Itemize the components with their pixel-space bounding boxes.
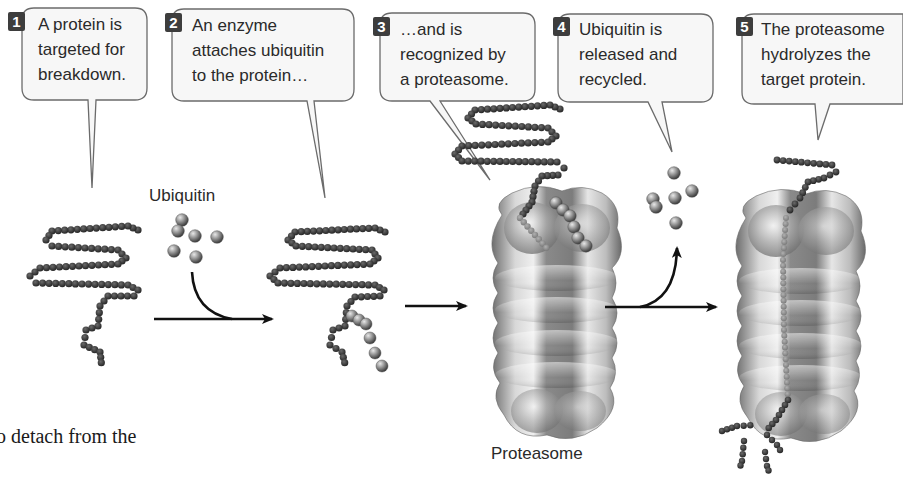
ubiquitin-chain-bead — [369, 347, 381, 359]
ubiquitin-pathway-diagram: 1 A protein is targeted for breakdown. 2… — [0, 0, 903, 479]
ubiquitin-chain-bead — [564, 210, 576, 222]
step-text-line: An enzyme — [192, 16, 277, 35]
released-ubiquitin — [650, 201, 663, 214]
reaction-arrow-3 — [605, 248, 716, 307]
step-number: 2 — [169, 14, 177, 31]
step-number: 3 — [377, 18, 385, 35]
step-number: 5 — [740, 18, 748, 35]
ubiquitin-chain-bead — [568, 221, 580, 233]
step-1-callout: 1 A protein is targeted for breakdown. — [8, 8, 147, 188]
step-text-line: attaches ubiquitin — [192, 41, 324, 60]
step-text-line: breakdown. — [38, 65, 126, 84]
proteasome-3 — [492, 186, 622, 438]
peptide-fragment — [762, 449, 772, 474]
released-ubiquitin — [669, 192, 682, 205]
step-text-line: to the protein… — [192, 66, 308, 85]
step-text-line: recycled. — [579, 70, 647, 89]
released-ubiquitin — [668, 167, 681, 180]
peptide-fragment — [737, 438, 747, 469]
released-ubiquitin — [686, 185, 699, 198]
step-number: 4 — [557, 18, 566, 35]
released-ubiquitin — [670, 217, 683, 230]
step-text-line: targeted for — [38, 40, 125, 59]
step-2-callout: 2 An enzyme attaches ubiquitin to the pr… — [165, 9, 354, 198]
ubiquitin-molecule — [172, 225, 185, 238]
step-number: 1 — [12, 13, 20, 30]
step-text-line: recognized by — [400, 45, 506, 64]
peptide-fragment — [719, 422, 754, 434]
step-4-callout: 4 Ubiquitin is released and recycled. — [553, 14, 713, 152]
reaction-arrow-1 — [154, 272, 272, 319]
protein-chains — [26, 101, 839, 473]
ubiquitin-molecule — [211, 231, 224, 244]
ubiquitin-label: Ubiquitin — [149, 186, 215, 205]
target-protein-1 — [26, 222, 141, 366]
ubiquitin-molecule — [189, 230, 202, 243]
step-text-line: …and is — [400, 20, 462, 39]
ubiquitin-chain-bead — [364, 332, 376, 344]
ubiquitin-molecule — [168, 245, 181, 258]
step-text-line: A protein is — [38, 15, 122, 34]
proteasome-5 — [736, 189, 866, 441]
target-protein-2 — [266, 224, 388, 366]
step-text-line: The proteasome — [761, 20, 885, 39]
ubiquitin-chain-bead — [376, 360, 388, 372]
proteasome-label: Proteasome — [491, 444, 583, 463]
ubiquitin-chain-bead — [360, 318, 372, 330]
step-text-line: hydrolyzes the — [761, 45, 871, 64]
figure-canvas: 1 A protein is targeted for breakdown. 2… — [0, 0, 903, 479]
step-text-line: target protein. — [761, 70, 866, 89]
step-text-line: released and — [579, 45, 677, 64]
step-5-callout: 5 The proteasome hydrolyzes the target p… — [736, 14, 903, 140]
step-text-line: Ubiquitin is — [579, 20, 662, 39]
ubiquitin-molecule — [190, 251, 203, 264]
ubiquitin-molecule — [176, 214, 189, 227]
body-text-fragment: o detach from the — [0, 425, 137, 447]
callout-bubble — [172, 9, 354, 198]
ubiquitin-chain-bead — [580, 240, 592, 252]
callout-bubble — [22, 8, 147, 188]
step-text-line: a proteasome. — [400, 70, 509, 89]
